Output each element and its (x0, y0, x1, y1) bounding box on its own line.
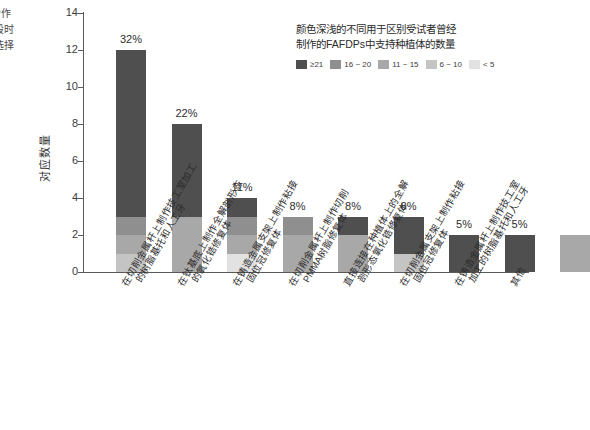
y-axis-title: 对应数量 (36, 113, 52, 203)
bar-0-segment-≥21 (116, 50, 146, 217)
y-axis-line (83, 12, 84, 273)
y-tick-0: 0 (48, 272, 84, 273)
y-tick-label-14: 14 (52, 6, 78, 18)
y-tick-8: 8 (48, 124, 84, 125)
bar-value-label-7: 5% (512, 218, 528, 230)
y-tick-label-6: 6 (52, 154, 78, 166)
y-tick-12: 12 (48, 50, 84, 51)
bar-value-label-6: 5% (456, 218, 472, 230)
bar-8-segment-11 ~ 15 (560, 235, 590, 272)
y-tick-4: 4 (48, 198, 84, 199)
y-tick-label-8: 8 (52, 117, 78, 129)
bar-value-label-1: 22% (175, 107, 197, 119)
y-tick-2: 2 (48, 235, 84, 236)
y-tick-6: 6 (48, 161, 84, 162)
y-tick-10: 10 (48, 87, 84, 88)
y-tick-label-12: 12 (52, 43, 78, 55)
y-tick-label-10: 10 (52, 80, 78, 92)
y-tick-label-0: 0 (52, 265, 78, 277)
bar-8[interactable] (560, 235, 590, 272)
bar-value-label-0: 32% (120, 33, 142, 45)
bar-0[interactable] (116, 50, 146, 272)
y-tick-label-4: 4 (52, 191, 78, 203)
y-tick-14: 14 (48, 13, 84, 14)
y-tick-label-2: 2 (52, 228, 78, 240)
bar-0-segment-16 ~ 20 (116, 217, 146, 236)
